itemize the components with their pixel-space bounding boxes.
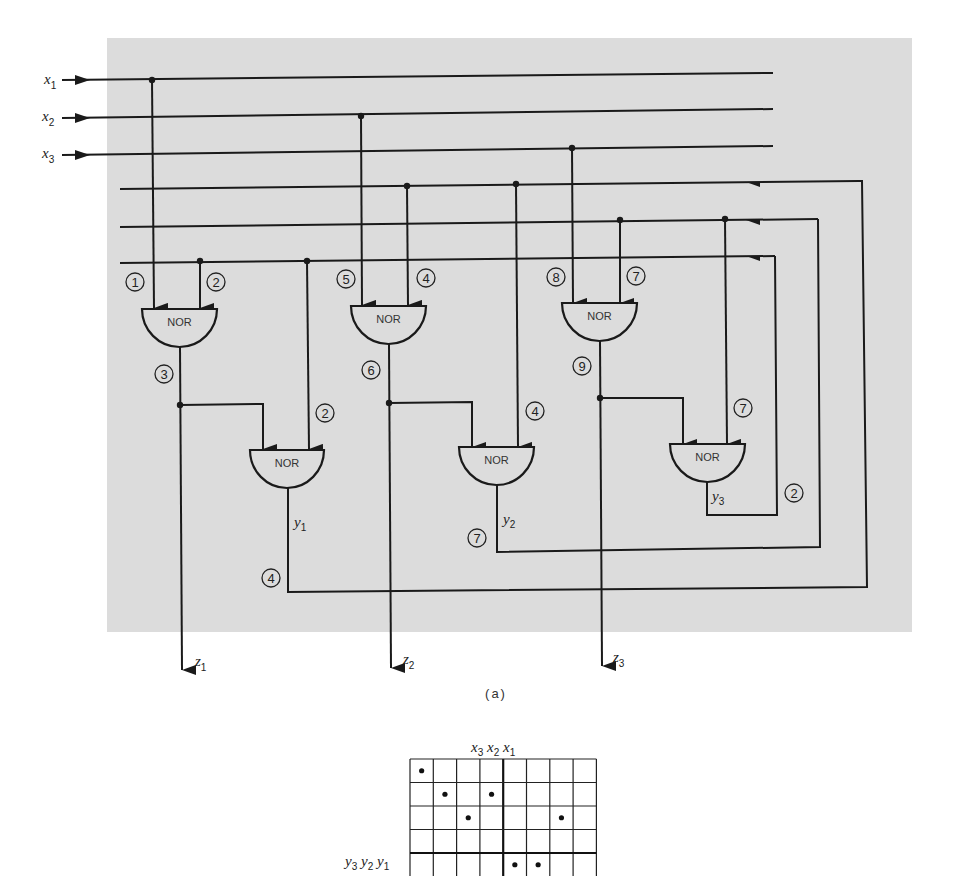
input-line-x2 (62, 109, 773, 123)
output-label-z1: z1 (194, 653, 207, 673)
svg-text:9: 9 (578, 359, 585, 374)
wire-number-g1-in-b: 2 (207, 273, 225, 291)
wire-number-g5-in-b: 7 (627, 267, 645, 285)
wire-number-y3-fb: 2 (785, 484, 803, 502)
kmap-col-label: x3 x2 x1 (470, 739, 516, 758)
input-line-x1 (62, 73, 773, 85)
nor-circuit-diagram: x1 x2 x3 (0, 0, 957, 876)
output-line-z1 (180, 347, 182, 670)
gate5-inputs (572, 148, 620, 303)
nor-gate-2: NOR (250, 450, 324, 488)
input-label-x2: x2 (41, 108, 55, 128)
svg-text:8: 8 (552, 270, 559, 285)
gate1-inputs (152, 80, 200, 308)
state-label-y3: y3 (710, 488, 725, 507)
svg-text:7: 7 (632, 269, 639, 284)
wire-number-g2-in-b: 2 (316, 404, 334, 422)
wire-number-g6-in-b: 7 (734, 399, 752, 417)
input-line-x3 (62, 146, 773, 160)
nor-gate-4: NOR (459, 447, 534, 485)
kmap-grid: x3 x2 x1 y3 y2 y1 (343, 739, 596, 876)
kmap-row-label: y3 y2 y1 (343, 853, 390, 872)
svg-text:2: 2 (790, 486, 797, 501)
wire-number-g5-out: 9 (573, 357, 591, 375)
arrow-left-icon (746, 251, 760, 261)
wire-number-g1-in-a: 1 (126, 273, 144, 291)
svg-text:NOR: NOR (695, 451, 720, 463)
kmap-dot (536, 862, 541, 867)
output-line-z3 (600, 341, 602, 666)
wire-number-y1-fb: 4 (262, 569, 280, 587)
svg-text:4: 4 (267, 571, 274, 586)
svg-text:NOR: NOR (275, 457, 300, 469)
figure-caption: (a) (485, 686, 507, 701)
arrow-right-icon (75, 150, 90, 160)
wire-number-g4-in-b: 4 (526, 402, 544, 420)
arrow-left-icon (746, 215, 760, 225)
kmap-dot (466, 815, 471, 820)
svg-text:2: 2 (212, 275, 219, 290)
svg-text:5: 5 (342, 272, 349, 287)
wire-number-g1-out: 3 (155, 365, 173, 383)
kmap-dot (442, 792, 447, 797)
wire-number-g3-in-b: 4 (417, 269, 435, 287)
output-label-z3: z3 (612, 649, 625, 669)
nor-gate-1: NOR (142, 309, 217, 347)
svg-text:1: 1 (131, 275, 138, 290)
arrow-right-icon (75, 75, 90, 85)
arrow-right-icon (75, 113, 90, 123)
kmap-dot (512, 862, 517, 867)
state-label-y2: y2 (501, 511, 516, 530)
wire-number-y2-fb: 7 (468, 529, 486, 547)
wire-number-g3-in-a: 5 (337, 270, 355, 288)
junction-dots (149, 77, 728, 408)
nor-gate-3: NOR (351, 306, 426, 344)
svg-text:NOR: NOR (587, 310, 612, 322)
input-label-x3: x3 (41, 145, 55, 165)
nor-gate-5: NOR (562, 303, 637, 341)
svg-text:6: 6 (367, 363, 374, 378)
state-label-y1: y1 (292, 514, 307, 533)
feedback-line-y1 (120, 177, 867, 592)
nor-gate-6: NOR (670, 444, 745, 482)
svg-text:2: 2 (321, 406, 328, 421)
svg-text:7: 7 (473, 531, 480, 546)
svg-text:4: 4 (422, 271, 429, 286)
svg-text:NOR: NOR (167, 316, 192, 328)
svg-text:4: 4 (531, 404, 538, 419)
input-label-x1: x1 (43, 71, 57, 91)
output-label-z2: z2 (402, 651, 415, 671)
svg-text:NOR: NOR (376, 313, 401, 325)
kmap-dot (419, 768, 424, 773)
svg-text:3: 3 (160, 367, 167, 382)
kmap-dot (559, 815, 564, 820)
wire-number-g5-in-a: 8 (547, 268, 565, 286)
arrow-left-icon (746, 177, 760, 187)
wire-number-g3-out: 6 (362, 361, 380, 379)
gate3-inputs (361, 116, 408, 305)
output-line-z2 (389, 344, 391, 668)
svg-text:NOR: NOR (484, 454, 509, 466)
svg-text:7: 7 (739, 401, 746, 416)
kmap-dot (489, 792, 494, 797)
